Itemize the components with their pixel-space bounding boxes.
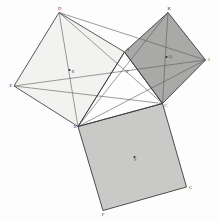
vertex-label-K: K <box>168 6 172 11</box>
vertex-label-D: D <box>58 6 62 11</box>
center-dot-R <box>68 69 70 71</box>
vertex-label-A: A <box>126 47 130 52</box>
vertex-label-C: C <box>164 103 167 108</box>
geometry-figure: ABCDERGFSKJQP <box>0 0 220 221</box>
center-label-R: R <box>72 69 75 74</box>
point-label-P: P <box>126 69 129 74</box>
vertex-label-G: G <box>189 185 193 190</box>
vertex-label-B: B <box>74 124 77 129</box>
vertex-label-F: F <box>102 212 105 217</box>
vertex-label-J: J <box>208 57 210 62</box>
square-on-BC <box>78 104 187 211</box>
vertex-label-E: E <box>9 83 12 88</box>
center-dot-Q <box>165 56 167 58</box>
geometry-canvas: ABCDERGFSKJQP <box>0 0 220 221</box>
